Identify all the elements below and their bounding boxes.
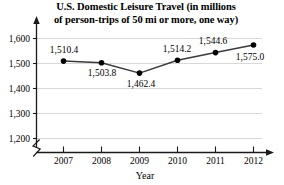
x-axis (37, 147, 275, 156)
x-tick-label-2008: 2008 (92, 156, 111, 166)
x-axis-tick-labels: 2007 2008 2009 2010 2011 2012 (54, 156, 263, 166)
data-label-2010: 1,514.2 (163, 44, 192, 54)
y-tick-label-1300: 1,300 (9, 109, 31, 119)
x-tick-label-2009: 2009 (130, 156, 149, 166)
y-axis-tick-labels: 1,600 1,500 1,400 1,300 1,200 (9, 34, 31, 144)
y-axis (33, 16, 40, 157)
y-tick-label-1200: 1,200 (9, 134, 31, 144)
data-label-2012: 1,575.0 (236, 52, 265, 62)
y-tick-label-1400: 1,400 (9, 84, 31, 94)
data-point-2011 (213, 50, 219, 56)
x-tick-label-2007: 2007 (54, 156, 73, 166)
y-tick-label-1500: 1,500 (9, 59, 31, 69)
data-point-2007 (61, 58, 67, 64)
x-tick-label-2011: 2011 (206, 156, 225, 166)
y-axis-arrow-icon (33, 16, 39, 24)
line-chart-plot: 1,600 1,500 1,400 1,300 1,200 2007 2008 … (0, 0, 284, 185)
x-axis-arrow-icon (266, 149, 274, 155)
data-label-2009: 1,462.4 (127, 79, 156, 89)
chart-figure: U.S. Domestic Leisure Travel (in million… (0, 0, 284, 185)
data-label-2008: 1,503.8 (88, 68, 117, 78)
x-axis-title: Year (136, 170, 155, 181)
data-point-2009 (137, 70, 143, 76)
x-tick-label-2010: 2010 (168, 156, 187, 166)
y-tick-label-1600: 1,600 (9, 34, 31, 44)
data-point-2010 (175, 57, 181, 63)
axis-break-icon (33, 140, 40, 157)
data-point-2012 (251, 42, 257, 48)
data-point-2008 (99, 60, 105, 66)
data-label-2011: 1,544.6 (199, 36, 228, 46)
x-tick-label-2012: 2012 (244, 156, 263, 166)
data-label-2007: 1,510.4 (50, 45, 79, 55)
